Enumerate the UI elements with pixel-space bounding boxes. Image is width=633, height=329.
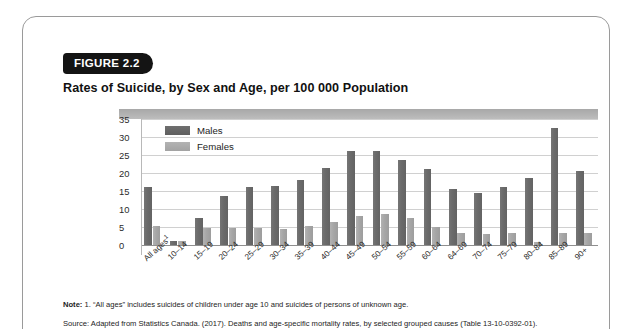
figure-source: Source: Adapted from Statistics Canada. …: [63, 318, 633, 329]
bar-group: [424, 119, 449, 245]
legend-label-females: Females: [197, 141, 234, 152]
bar-males: [449, 189, 457, 245]
y-tick-0: 0: [119, 240, 143, 251]
chart-legend: Males Females: [165, 125, 234, 157]
bar-group: [500, 119, 525, 245]
textbook-page: FIGURE 2.2 Rates of Suicide, by Sex and …: [0, 0, 633, 329]
bar-males: [297, 180, 305, 245]
bar-group: [373, 119, 398, 245]
chart-container: 05101520253035 Males Females: [119, 109, 598, 255]
bar-males: [576, 171, 584, 245]
bar-males: [525, 178, 533, 245]
bar-males: [551, 128, 559, 245]
bar-group: [551, 119, 576, 245]
bar-group: [525, 119, 550, 245]
note-text: 1. “All ages” includes suicides of child…: [82, 300, 408, 309]
chart-top-band: [119, 109, 598, 119]
bar-males: [474, 193, 482, 245]
bar-group: [347, 119, 372, 245]
bar-group: [449, 119, 474, 245]
note-prefix: Note:: [63, 300, 82, 309]
bar-group: [474, 119, 499, 245]
bar-males: [347, 151, 355, 245]
y-tick-20: 20: [119, 168, 143, 179]
figure-card: FIGURE 2.2 Rates of Suicide, by Sex and …: [22, 16, 610, 329]
chart-plot-area: 05101520253035 Males Females: [119, 119, 598, 255]
y-tick-25: 25: [119, 150, 143, 161]
bar-group: [246, 119, 271, 245]
bar-males: [246, 187, 254, 245]
bar-males: [144, 187, 152, 245]
legend-swatch-females-icon: [165, 142, 190, 151]
source-line-1: Source: Adapted from Statistics Canada. …: [63, 318, 633, 329]
bar-males: [322, 168, 330, 245]
bar-males: [271, 186, 279, 245]
bar-group: [576, 119, 601, 245]
figure-title: Rates of Suicide, by Sex and Age, per 10…: [63, 81, 603, 95]
y-tick-15: 15: [119, 186, 143, 197]
bar-males: [398, 160, 406, 245]
bar-group: [398, 119, 423, 245]
y-tick-5: 5: [119, 222, 143, 233]
bar-males: [500, 187, 508, 245]
bar-males: [195, 218, 203, 245]
figure-note: Note: 1. “All ages” includes suicides of…: [63, 300, 623, 310]
y-tick-10: 10: [119, 204, 143, 215]
legend-label-males: Males: [197, 125, 223, 136]
bar-group: [297, 119, 322, 245]
legend-item-males: Males: [165, 125, 234, 136]
bar-females: [584, 233, 592, 245]
legend-item-females: Females: [165, 141, 234, 152]
y-tick-30: 30: [119, 132, 143, 143]
y-tick-35: 35: [119, 114, 143, 125]
bar-males: [424, 169, 432, 245]
bar-males: [220, 196, 228, 245]
legend-swatch-males-icon: [165, 126, 190, 135]
x-axis-tick-labels: All ages110–1415–1920–2425–2930–3435–394…: [141, 255, 611, 299]
bar-group: [322, 119, 347, 245]
bar-group: [271, 119, 296, 245]
bar-males: [373, 151, 381, 245]
figure-tag: FIGURE 2.2: [63, 53, 153, 74]
